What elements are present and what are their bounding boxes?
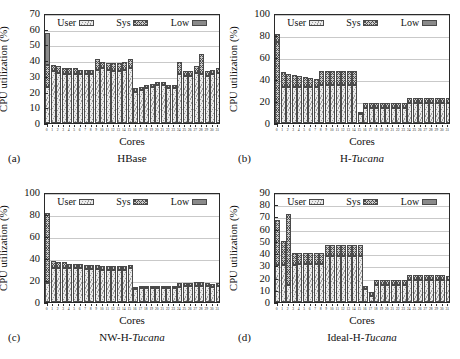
plot-area (44, 14, 220, 124)
bar-segment-sys (418, 98, 423, 104)
bar-column (128, 193, 133, 302)
bar-segment-user (303, 87, 308, 123)
bar-segment-user (347, 85, 352, 124)
x-tick-label: 23 (401, 127, 405, 133)
panel-tag: (d) (238, 331, 251, 343)
x-tick-label: 0 (46, 306, 48, 312)
x-tick-label: 31 (445, 306, 449, 312)
bar-column (330, 193, 335, 302)
bar-column (308, 14, 313, 123)
bar-segment-sys (297, 76, 302, 87)
bar-segment-user (413, 280, 418, 302)
bar-column (150, 193, 155, 302)
x-tick-label: 12 (111, 306, 115, 312)
bar-segment-sys (205, 283, 210, 285)
bar-segment-user (341, 85, 346, 124)
bar-column (341, 193, 346, 302)
bar-segment-sys (429, 275, 434, 280)
bar-segment-user (133, 289, 138, 302)
bar-column (73, 193, 78, 302)
bar-segment-user (385, 108, 390, 123)
x-tick-label: 21 (390, 306, 394, 312)
bar-column (155, 193, 160, 302)
x-tick-label: 11 (336, 306, 339, 312)
panel-caption: HBase (44, 152, 220, 164)
bar-column (446, 193, 450, 302)
x-tick-label: 30 (440, 127, 444, 133)
y-tick-mark (44, 45, 48, 46)
bar-segment-user (73, 268, 78, 302)
x-tick-label: 15 (127, 306, 131, 312)
bar-segment-sys (402, 280, 407, 285)
x-tick-label: 13 (116, 306, 120, 312)
x-tick-label: 24 (407, 306, 411, 312)
bar-column (424, 14, 429, 123)
bar-segment-user (194, 73, 199, 123)
bar-column (325, 193, 330, 302)
y-tick-label: 20 (0, 88, 40, 98)
bar-segment-user (396, 108, 401, 123)
bar-segment-sys (396, 280, 401, 285)
bar-segment-sys (128, 59, 133, 68)
bar-segment-sys (161, 82, 166, 85)
x-tick-label: 3 (62, 306, 64, 312)
x-tick-label: 12 (341, 127, 345, 133)
x-tick-label: 18 (374, 306, 378, 312)
plot-area (44, 193, 220, 303)
bar-segment-sys (341, 245, 346, 256)
bar-column (78, 14, 83, 123)
bar-segment-sys (363, 286, 368, 288)
bar-segment-user (177, 287, 182, 302)
bar-segment-sys (177, 62, 182, 75)
bar-segment-sys (314, 253, 319, 264)
bar-segment-user (396, 285, 401, 302)
bar-segment-sys (188, 71, 193, 76)
bar-segment-user (358, 256, 363, 302)
bar-column (133, 193, 138, 302)
bar-segment-sys (155, 286, 160, 288)
bar-segment-sys (194, 282, 199, 285)
bar-segment-user (62, 268, 67, 302)
y-tick-mark (274, 102, 278, 103)
bar-segment-sys (347, 71, 352, 84)
bar-segment-sys (172, 286, 177, 288)
bar-column (205, 14, 210, 123)
bar-segment-sys (369, 103, 374, 107)
bar-segment-sys (150, 84, 155, 87)
bar-segment-user (308, 87, 313, 123)
bar-segment-user (78, 268, 83, 302)
bar-segment-sys (292, 253, 297, 265)
bar-column (216, 193, 220, 302)
y-tick-label: 20 (230, 97, 270, 107)
bar-column (319, 193, 324, 302)
y-tick-label: 20 (0, 276, 40, 286)
bar-column (177, 193, 182, 302)
x-tick-label: 6 (79, 306, 81, 312)
bar-column (396, 193, 401, 302)
bar-segment-user (319, 85, 324, 124)
x-tick-label: 30 (210, 306, 214, 312)
bar-column (336, 193, 341, 302)
figure-cpu-utilization-panels: CPU utilization (%)010203040506070012345… (0, 0, 460, 359)
x-tick-label: 23 (171, 127, 175, 133)
bar-segment-user (446, 280, 450, 302)
bar-column (210, 193, 215, 302)
bar-column (385, 14, 390, 123)
bar-segment-sys (325, 71, 330, 84)
bar-column (56, 193, 61, 302)
bar-segment-user (385, 285, 390, 302)
bar-segment-sys (391, 280, 396, 285)
bar-column (418, 193, 423, 302)
bar-segment-sys (117, 266, 122, 270)
y-tick-mark (44, 14, 48, 15)
bar-segment-user (352, 256, 357, 302)
bar-column (67, 193, 72, 302)
bar-column (407, 193, 412, 302)
bar-segment-user (194, 286, 199, 303)
bar-segment-user (78, 74, 83, 123)
bar-column (330, 14, 335, 123)
bar-column (139, 193, 144, 302)
bar-column (341, 14, 346, 123)
panel-tag: (b) (238, 152, 251, 164)
bar-column (89, 193, 94, 302)
